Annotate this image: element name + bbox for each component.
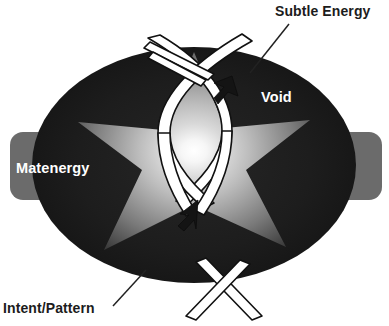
leader-intent-pattern bbox=[113, 270, 146, 306]
label-matenergy: Matenergy bbox=[16, 160, 89, 176]
diagram-canvas: Subtle Energy Intent/Pattern Void Matene… bbox=[0, 0, 389, 326]
label-void: Void bbox=[261, 89, 292, 105]
label-subtle-energy: Subtle Energy bbox=[275, 3, 370, 19]
label-intent-pattern: Intent/Pattern bbox=[3, 300, 95, 316]
